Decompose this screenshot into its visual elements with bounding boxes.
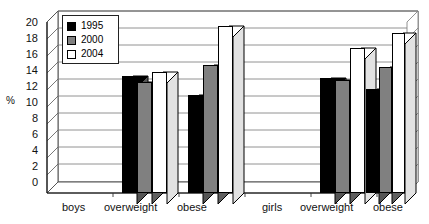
bar-2000-girls-obese [379,67,392,193]
bar-1995-boys-obese [188,95,203,193]
bar-2004-boys-overweight [152,72,167,193]
legend-swatch-1995 [67,22,76,31]
legend-label-1995: 1995 [81,21,103,31]
x-label-boys: boys [62,201,85,213]
bar-1995-girls-obese [366,89,379,193]
legend-label-2000: 2000 [81,35,103,45]
x-label-boys-obese: obese [177,201,207,213]
bar-2004-girls-overweight [350,48,365,193]
x-label-boys-overweight: overweight [104,201,157,213]
legend-swatch-2004 [67,50,76,59]
x-label-girls-overweight: overweight [300,201,353,213]
bar-1995-boys-overweight [122,76,137,193]
legend-item-2000: 2000 [67,33,114,47]
chart-legend: 1995 2000 2004 [62,15,119,64]
bar-2004-boys-obese [218,26,233,193]
legend-swatch-2000 [67,36,76,45]
x-label-girls-obese: obese [373,201,403,213]
bar-2004-girls-obese [392,33,405,193]
bar-1995-girls-overweight [320,78,335,193]
x-label-girls: girls [262,201,282,213]
legend-label-2004: 2004 [81,49,103,59]
bar-2000-girls-overweight [335,80,350,193]
legend-item-1995: 1995 [67,19,114,33]
bar-2000-boys-overweight [137,82,152,193]
legend-item-2004: 2004 [67,47,114,61]
bar-2000-boys-obese [203,65,218,193]
bar-chart: % 20 18 16 14 12 10 8 6 4 2 0 [0,0,429,224]
